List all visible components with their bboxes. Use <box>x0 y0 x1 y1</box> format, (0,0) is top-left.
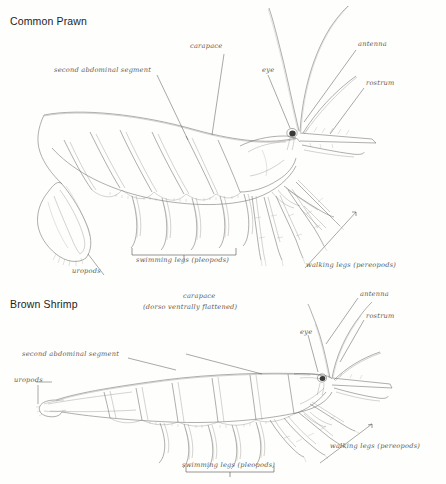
brown-shrimp-drawing <box>36 298 392 477</box>
label-prawn-carapace: carapace <box>190 42 222 50</box>
label-prawn-antenna: antenna <box>358 40 387 48</box>
label-shrimp-second-abdominal-segment: second abdominal segment <box>22 350 119 358</box>
label-shrimp-swimming-legs: swimming legs (pleopods) <box>182 461 275 469</box>
label-prawn-uropods: uropods <box>72 267 101 275</box>
label-shrimp-eye: eye <box>300 328 312 336</box>
specimen-title-brown-shrimp: Brown Shrimp <box>10 298 78 310</box>
label-prawn-walking-legs: walking legs (pereopods) <box>306 261 396 269</box>
specimen-title-common-prawn: Common Prawn <box>10 15 87 27</box>
label-prawn-eye: eye <box>262 66 274 74</box>
label-shrimp-carapace: carapace <box>183 292 215 300</box>
label-prawn-second-abdominal-segment: second abdominal segment <box>54 66 151 74</box>
label-shrimp-rostrum: rostrum <box>366 312 395 320</box>
label-prawn-rostrum: rostrum <box>366 79 395 87</box>
label-prawn-swimming-legs: swimming legs (pleopods) <box>136 256 229 264</box>
label-shrimp-walking-legs: walking legs (pereopods) <box>330 442 420 450</box>
label-shrimp-carapace-note: (dorso ventrally flattened) <box>143 303 237 311</box>
label-shrimp-antenna: antenna <box>360 290 389 298</box>
label-shrimp-uropods: uropods <box>14 376 43 384</box>
anatomy-plate: Common Prawn Brown Shrimp second abdomin… <box>0 0 446 484</box>
